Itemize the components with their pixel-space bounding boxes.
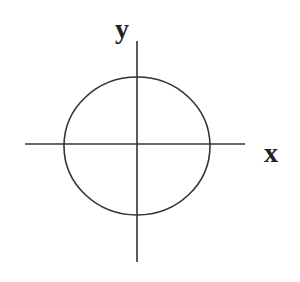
x-axis-label: x <box>264 137 278 168</box>
y-axis-label: y <box>115 13 129 44</box>
coordinate-diagram: y x <box>0 0 300 282</box>
